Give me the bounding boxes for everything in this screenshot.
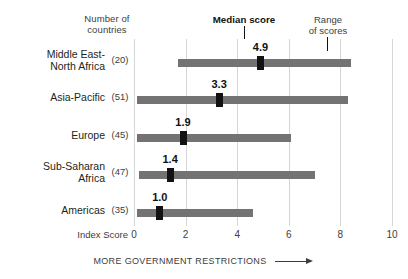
x-axis-tick-label: 6 [286,229,292,240]
median-marker[interactable] [156,206,163,220]
x-axis-title: Index Score [48,229,128,240]
range-bar[interactable] [137,134,292,142]
median-marker[interactable] [167,168,174,182]
median-marker[interactable] [257,56,264,70]
legend-median-leader-line [244,26,245,39]
median-value-label: 1.0 [152,191,167,203]
chart-row: 3.3 [134,76,392,113]
x-axis-tick-label: 4 [234,229,240,240]
chart-row: 1.0 [134,189,392,226]
column-header-number-of-countries: Number of countries [74,13,140,35]
median-value-label: 3.3 [211,78,226,90]
x-axis-tick-label: 0 [131,229,137,240]
gridline [392,39,393,226]
range-bar[interactable] [139,171,314,179]
legend-range-of-scores: Range of scores [296,14,360,36]
range-bar[interactable] [178,59,351,67]
plot-area: 4.93.31.91.41.0 [134,39,392,226]
chart-row: 1.4 [134,151,392,188]
range-bar[interactable] [137,209,253,217]
chart-row: 1.9 [134,114,392,151]
median-value-label: 1.9 [175,116,190,128]
country-count-column: (20)(51)(45)(47)(35) [0,39,134,226]
x-axis-tick-label: 2 [183,229,189,240]
median-value-label: 4.9 [253,41,268,53]
x-axis: 0246810 [134,226,392,244]
right-arrow-icon [275,258,315,266]
x-axis-tick-label: 8 [338,229,344,240]
median-marker[interactable] [216,93,223,107]
range-bar[interactable] [137,96,349,104]
country-count: (45) [108,129,132,140]
country-count: (35) [108,204,132,215]
axis-direction-note: MORE GOVERNMENT RESTRICTIONS [0,256,408,266]
chart-row: 4.9 [134,39,392,76]
chart-container: Number of countries Median score Range o… [0,0,408,279]
country-count: (20) [108,54,132,65]
legend-median-score: Median score [198,14,290,25]
country-count: (47) [108,166,132,177]
country-count: (51) [108,91,132,102]
x-axis-tick-label: 10 [386,229,397,240]
axis-direction-text: MORE GOVERNMENT RESTRICTIONS [93,256,266,266]
median-value-label: 1.4 [162,153,177,165]
median-marker[interactable] [180,131,187,145]
